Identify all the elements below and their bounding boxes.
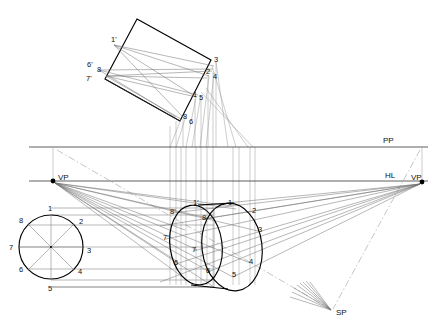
plan-label-8: 8 [19, 216, 23, 225]
plan-label-6: 6 [19, 265, 23, 274]
cyl-label-8p: 8' [170, 207, 176, 216]
plan-circle-labels: 1 2 3 4 5 6 7 8 [9, 204, 91, 293]
plan-label-7: 7 [9, 243, 13, 252]
perspective-construction-drawing: PP HL VP VP [0, 0, 440, 326]
vp-right-label: VP [411, 173, 422, 182]
rot-label-3: 3 [214, 55, 218, 64]
rays-from-right-vp [160, 184, 420, 282]
vertical-projectors [170, 62, 255, 285]
rot-label-7p: 7' [86, 74, 92, 83]
cyl-label-1: 1 [228, 198, 232, 207]
cyl-label-2: 2 [252, 206, 256, 215]
cyl-label-7: 7 [192, 245, 196, 254]
sight-lines-to-sp [57, 150, 420, 310]
cyl-label-1p: 1' [193, 198, 199, 207]
rot-label-6p: 6' [87, 60, 93, 69]
plan-label-2: 2 [79, 217, 83, 226]
cyl-label-6: 6 [206, 266, 210, 275]
rot-label-4: 4 [213, 72, 217, 81]
vp-tie-lines [53, 147, 422, 182]
sp-label: SP [336, 308, 347, 317]
vp-left-marker: VP [51, 173, 69, 183]
cyl-label-4: 4 [249, 257, 253, 266]
sp-ray-fan [290, 281, 331, 310]
plan-label-3: 3 [87, 246, 91, 255]
rot-label-6b: 6 [189, 117, 193, 126]
rot-label-1: 1 [193, 90, 197, 99]
rot-label-2: 2 [206, 67, 210, 76]
rot-label-8b: 8 [183, 112, 187, 121]
rot-label-1p: 1' [111, 35, 117, 44]
plan-to-pp-rays [170, 62, 253, 147]
vp-left-label: VP [58, 173, 69, 182]
cyl-label-7p: 7' [163, 233, 169, 242]
rot-label-5: 5 [199, 93, 203, 102]
drawing-canvas: PP HL VP VP [0, 0, 440, 326]
pp-label: PP [383, 136, 394, 145]
hl-label: HL [385, 171, 396, 180]
cyl-label-8: 8 [202, 213, 206, 222]
rot-label-8: 8 [97, 65, 101, 74]
picture-plane-line: PP [29, 136, 428, 147]
plan-label-4: 4 [78, 267, 82, 276]
cyl-label-6-back: 6 [174, 258, 178, 267]
vp-right-marker: VP [411, 173, 424, 184]
station-point-marker: SP [336, 308, 347, 317]
horizon-line: HL [29, 171, 428, 181]
plan-label-5: 5 [48, 284, 52, 293]
ground-plan-box [51, 208, 214, 287]
cyl-label-5: 5 [232, 270, 236, 279]
rotated-plan-labels: 1' 3 2 4 6' 8 7' 1 5 8 6 [86, 35, 218, 126]
plan-label-1: 1 [48, 204, 52, 213]
orthographic-plan-circle [19, 215, 83, 279]
plan-horizontal-projectors [19, 208, 214, 287]
cyl-label-3: 3 [258, 225, 262, 234]
